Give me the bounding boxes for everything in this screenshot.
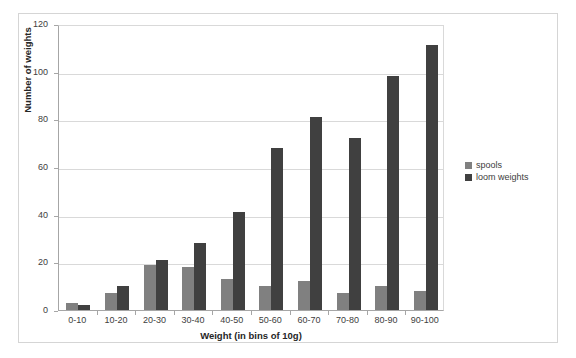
bar-spools-60-70 — [298, 281, 310, 310]
bar-group — [414, 26, 438, 310]
x-tick-label: 40-50 — [212, 315, 251, 325]
y-tick-label: 80 — [18, 114, 48, 124]
legend-label: loom weights — [476, 172, 529, 182]
chart-legend: spoolsloom weights — [465, 160, 529, 184]
legend-label: spools — [476, 160, 502, 170]
legend-item-spools: spools — [465, 160, 529, 170]
bar-loom-weights-50-60 — [271, 148, 283, 310]
bar-group — [298, 26, 322, 310]
y-tick-label: 20 — [18, 257, 48, 267]
y-tick-mark — [54, 311, 58, 312]
bar-spools-30-40 — [182, 267, 194, 310]
bar-spools-40-50 — [221, 279, 233, 310]
y-tick-label: 40 — [18, 210, 48, 220]
x-tick-label: 90-100 — [405, 315, 444, 325]
x-tick-label: 70-80 — [328, 315, 367, 325]
y-tick-label: 120 — [18, 19, 48, 29]
x-tick-mark — [174, 311, 175, 315]
y-tick-label: 60 — [18, 162, 48, 172]
bar-group — [66, 26, 90, 310]
legend-swatch-icon — [465, 174, 472, 181]
bar-group — [337, 26, 361, 310]
x-tick-mark — [405, 311, 406, 315]
bar-group — [221, 26, 245, 310]
legend-swatch-icon — [465, 162, 472, 169]
x-tick-mark — [367, 311, 368, 315]
bar-group — [105, 26, 129, 310]
y-tick-label: 100 — [18, 67, 48, 77]
bar-loom-weights-60-70 — [310, 117, 322, 310]
x-tick-label: 10-20 — [97, 315, 136, 325]
bar-spools-10-20 — [105, 293, 117, 310]
bar-chart: Number of weights 020406080100120 0-1010… — [0, 0, 576, 358]
x-tick-mark — [97, 311, 98, 315]
bar-loom-weights-0-10 — [78, 305, 90, 310]
bar-loom-weights-80-90 — [387, 76, 399, 310]
x-tick-mark — [251, 311, 252, 315]
bar-group — [259, 26, 283, 310]
bar-group — [144, 26, 168, 310]
bar-spools-70-80 — [337, 293, 349, 310]
bar-loom-weights-70-80 — [349, 138, 361, 310]
x-tick-label: 0-10 — [58, 315, 97, 325]
bar-spools-50-60 — [259, 286, 271, 310]
bar-spools-0-10 — [66, 303, 78, 310]
bar-spools-90-100 — [414, 291, 426, 310]
bar-loom-weights-20-30 — [156, 260, 168, 310]
bar-loom-weights-30-40 — [194, 243, 206, 310]
y-tick-label: 0 — [18, 305, 48, 315]
x-tick-label: 50-60 — [251, 315, 290, 325]
x-tick-label: 60-70 — [290, 315, 329, 325]
x-tick-mark — [328, 311, 329, 315]
bar-group — [182, 26, 206, 310]
x-tick-mark — [290, 311, 291, 315]
bar-loom-weights-90-100 — [426, 45, 438, 310]
legend-item-loom-weights: loom weights — [465, 172, 529, 182]
x-tick-label: 20-30 — [135, 315, 174, 325]
x-tick-label: 80-90 — [367, 315, 406, 325]
bar-spools-80-90 — [375, 286, 387, 310]
bar-loom-weights-40-50 — [233, 212, 245, 310]
x-tick-mark — [212, 311, 213, 315]
bar-group — [375, 26, 399, 310]
plot-area — [58, 25, 444, 311]
x-tick-mark — [135, 311, 136, 315]
bar-loom-weights-10-20 — [117, 286, 129, 310]
x-axis-title: Weight (in bins of 10g) — [58, 330, 444, 341]
x-tick-label: 30-40 — [174, 315, 213, 325]
bar-spools-20-30 — [144, 265, 156, 310]
